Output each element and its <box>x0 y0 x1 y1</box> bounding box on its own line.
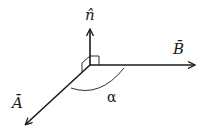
vector-diagram: n̂ B̄ Ā α <box>0 0 205 133</box>
normal-label: n̂ <box>85 8 95 23</box>
diagram-graphic <box>0 0 205 133</box>
vector-a-arrow <box>26 65 90 124</box>
angle-arc <box>71 68 124 91</box>
vector-a-label: Ā <box>12 96 23 111</box>
angle-label: α <box>107 90 116 104</box>
vector-b-label: B̄ <box>173 42 184 57</box>
right-angle-marker-nb <box>90 56 99 65</box>
